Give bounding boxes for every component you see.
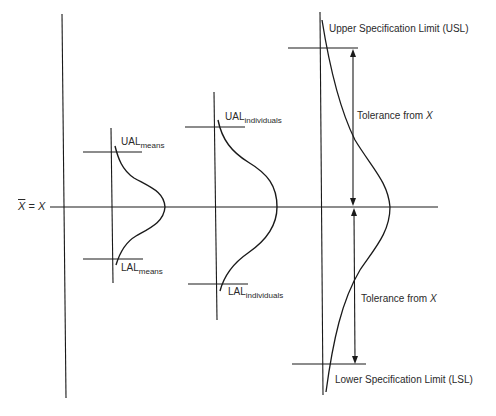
tolerance-lower-label: Tolerance from X (361, 294, 437, 304)
centerline-label: X = X (18, 201, 45, 212)
center-arrowhead-down (350, 198, 356, 206)
lsl-arrowhead-down (352, 356, 358, 364)
center-arrowhead-up (351, 208, 357, 216)
spec-distribution-curve (322, 20, 390, 392)
individuals-distribution-curve (218, 120, 277, 291)
means-vertical-axis (111, 128, 113, 283)
tolerance-lower-arrow-line (354, 214, 355, 360)
tolerance-upper-label: Tolerance from X (357, 111, 433, 121)
usl-arrowhead-up (350, 49, 356, 57)
lsl-label: Lower Specification Limit (LSL) (335, 375, 473, 385)
usl-label: Upper Specification Limit (USL) (329, 24, 469, 34)
main-vertical-axis (62, 14, 66, 398)
individuals-vertical-axis (214, 92, 217, 320)
spec-vertical-axis (320, 12, 323, 395)
ual-means-label: UALmeans (121, 137, 164, 150)
lal-individuals-label: LALindividuals (228, 287, 283, 300)
ual-individuals-label: UALindividuals (225, 112, 282, 125)
lal-means-label: LALmeans (121, 263, 163, 276)
control-limits-diagram (0, 0, 496, 416)
means-distribution-curve (115, 146, 165, 265)
